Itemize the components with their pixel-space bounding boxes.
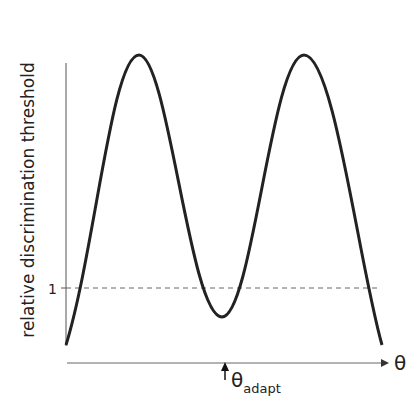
chart: 1 relative discrimination threshold θ θa… (0, 0, 419, 419)
y-tick-label: 1 (48, 281, 57, 297)
adapt-subscript: adapt (243, 381, 281, 396)
adapt-theta: θ (231, 368, 243, 392)
adapt-label: θadapt (231, 368, 281, 396)
x-axis-label: θ (394, 351, 406, 375)
threshold-curve (66, 55, 382, 345)
y-axis-label: relative discrimination threshold (18, 62, 38, 337)
x-axis-arrow-icon (381, 359, 389, 367)
